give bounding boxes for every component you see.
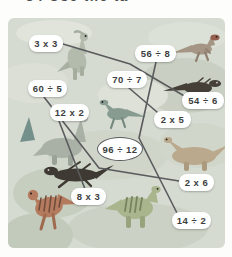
tile-60div5: 60 ÷ 5 — [28, 80, 67, 97]
line-12x2-to-8x3 — [59, 121, 85, 189]
page-heading-text: 34 Use the ta — [26, 0, 226, 4]
tile-12x2: 12 x 2 — [50, 104, 89, 121]
tile-2x5: 2 x 5 — [154, 111, 191, 128]
tile-96div12-circled: 96 ÷ 12 — [97, 137, 143, 161]
worksheet-page: { "page": { "heading_partial": "34 Use t… — [0, 0, 232, 257]
tile-8x3: 8 x 3 — [71, 188, 106, 205]
line-70div7-to-2x5 — [129, 88, 157, 112]
tile-3x3: 3 x 3 — [29, 35, 63, 52]
page-heading-clipped: 34 Use the ta — [26, 0, 226, 5]
puzzle-panel: 3 x 3 56 ÷ 8 70 ÷ 7 60 ÷ 5 54 ÷ 6 12 x 2… — [8, 18, 225, 248]
tile-14div2: 14 ÷ 2 — [172, 212, 211, 229]
tile-70div7: 70 ÷ 7 — [107, 71, 147, 88]
tile-54div6: 54 ÷ 6 — [182, 92, 224, 109]
tile-2x6: 2 x 6 — [179, 174, 214, 191]
tile-56div8: 56 ÷ 8 — [135, 45, 176, 62]
